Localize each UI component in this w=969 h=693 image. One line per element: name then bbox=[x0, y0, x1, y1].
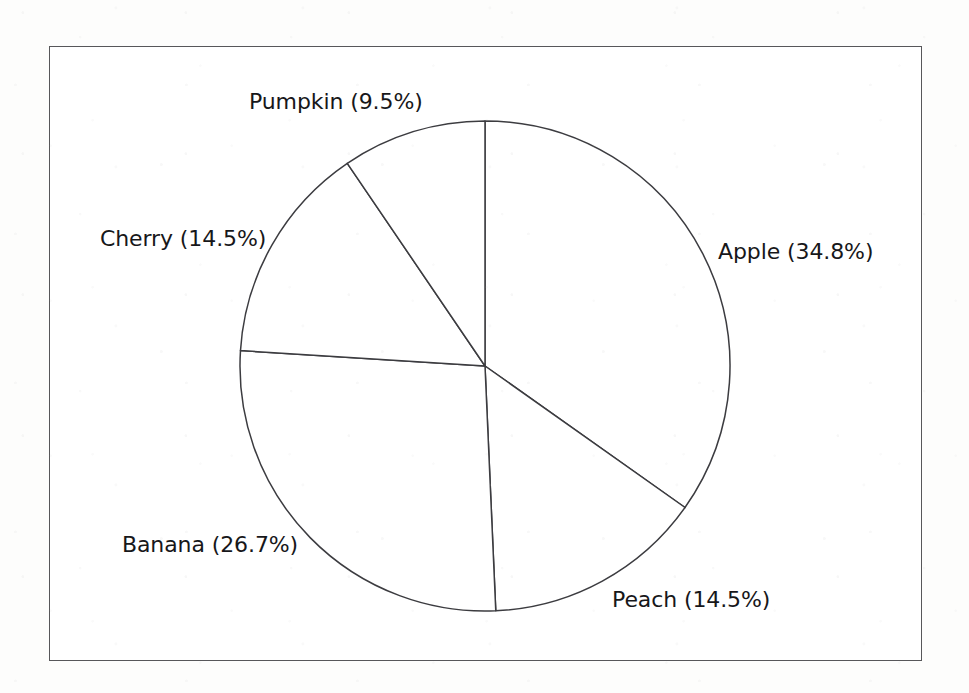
pie-chart bbox=[0, 0, 969, 693]
pie-wedge-banana bbox=[240, 351, 496, 611]
slice-label-apple: Apple (34.8%) bbox=[718, 241, 873, 263]
scanned-page-background: Apple (34.8%) Peach (14.5%) Banana (26.7… bbox=[0, 0, 969, 693]
slice-label-cherry: Cherry (14.5%) bbox=[100, 228, 266, 250]
pie-wedge-group bbox=[240, 121, 730, 611]
slice-label-banana: Banana (26.7%) bbox=[122, 534, 298, 556]
slice-label-pumpkin: Pumpkin (9.5%) bbox=[249, 91, 423, 113]
slice-label-peach: Peach (14.5%) bbox=[612, 589, 770, 611]
